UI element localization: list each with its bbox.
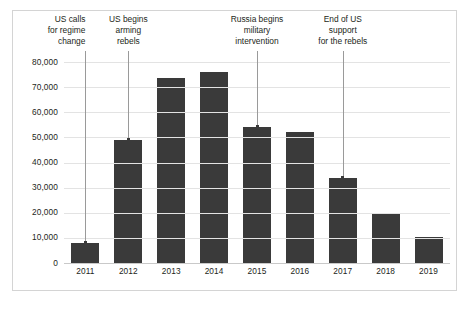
annotation-connector-2012 <box>128 51 129 139</box>
annotation-connector-2017 <box>343 51 344 177</box>
annotation-label-2012: US begins arming rebels <box>86 14 170 48</box>
annotation-label-2011: US calls for regime change <box>27 14 85 48</box>
annotation-marker-2012 <box>127 138 130 141</box>
annotation-marker-2015 <box>256 125 259 128</box>
annotation-label-2017: End of US support for the rebels <box>301 14 385 48</box>
chart-container: 80,00070,00060,00050,00040,00030,00020,0… <box>0 0 470 309</box>
annotation-marker-2011 <box>84 241 87 244</box>
annotation-layer: US calls for regime changeUS begins armi… <box>0 0 470 309</box>
annotation-connector-2015 <box>257 51 258 127</box>
annotation-label-2015: Russia begins military intervention <box>215 14 299 48</box>
annotation-connector-2011 <box>85 51 86 242</box>
annotation-marker-2017 <box>341 176 344 179</box>
